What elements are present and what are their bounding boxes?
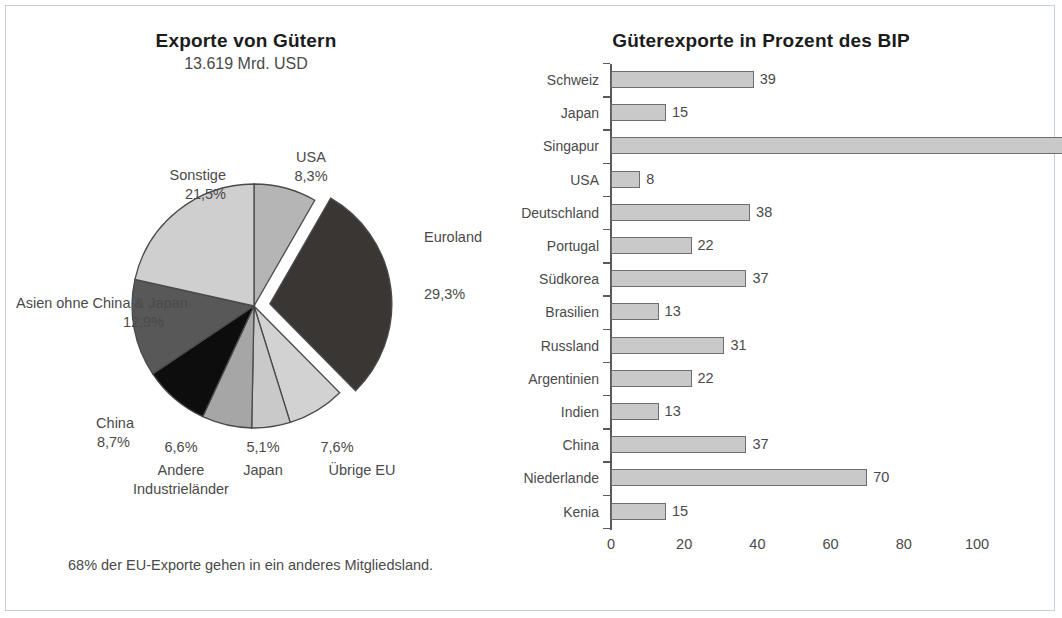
bar-chart: Schweiz39Japan15Singapur206USA8Deutschla… [511, 64, 1056, 564]
y-axis-tick [603, 395, 610, 396]
bar-value-label: 8 [646, 171, 654, 188]
bar-value-label: 22 [698, 237, 714, 254]
pie-label-andere-line1: Andere Industrieländer [121, 461, 241, 499]
bar-value-label: 70 [873, 469, 889, 486]
pie-value-andere-industrielaender: 6,6% [151, 438, 211, 457]
bar-deutschland [611, 204, 750, 221]
y-axis-tick [603, 63, 610, 64]
pie-chart-footnote: 68% der EU-Exporte gehen in ein anderes … [68, 557, 433, 573]
bar-argentinien [611, 370, 692, 387]
bar-category-label: Singapur [543, 138, 599, 154]
bar-chart-title: Güterexporte in Prozent des BIP [511, 30, 1011, 52]
chart-frame: Exporte von Gütern 13.619 Mrd. USD Sonst… [5, 5, 1055, 611]
y-axis-tick [603, 129, 610, 130]
bar-niederlande [611, 469, 867, 486]
pie-label-sonstige: Sonstige 21,5% [106, 166, 226, 204]
bar-s-dkorea [611, 270, 746, 287]
y-axis-tick [603, 196, 610, 197]
bar-value-label: 15 [672, 104, 688, 121]
pie-label-usa: USA 8,3% [266, 148, 356, 186]
pie-value-uebrige-eu: 7,6% [302, 438, 372, 457]
x-axis-tick-label: 100 [965, 536, 989, 552]
bar-value-label: 39 [760, 71, 776, 88]
bar-category-label: Portugal [547, 238, 599, 254]
y-axis-tick [603, 262, 610, 263]
bar-russland [611, 337, 724, 354]
bar-category-label: Kenia [563, 504, 599, 520]
bar-value-label: 38 [756, 204, 772, 221]
pie-label-uebrige-eu: Übrige EU [312, 461, 412, 480]
pie-chart-title: Exporte von Gütern [6, 30, 486, 52]
y-axis-tick [603, 428, 610, 429]
y-axis-tick [603, 495, 610, 496]
bar-value-label: 15 [672, 503, 688, 520]
bar-portugal [611, 237, 692, 254]
bar-category-label: Argentinien [528, 371, 599, 387]
y-axis-tick [603, 96, 610, 97]
pie-label-andere-industrielaender: Andere Industrieländer [116, 461, 246, 499]
bar-chart-y-axis [610, 64, 612, 530]
bar-category-label: Japan [561, 105, 599, 121]
x-axis-tick-label: 40 [749, 536, 765, 552]
x-axis-tick-label: 20 [676, 536, 692, 552]
x-axis-tick-label: 80 [896, 536, 912, 552]
bar-category-label: China [562, 437, 599, 453]
bar-category-label: Russland [541, 338, 599, 354]
pie-label-japan: Japan [228, 461, 298, 480]
bar-singapur [611, 137, 1062, 154]
pie-chart-subtitle: 13.619 Mrd. USD [6, 55, 486, 73]
bar-schweiz [611, 71, 754, 88]
pie-label-asien: Asien ohne China & Japan 12,9% [16, 294, 164, 332]
y-axis-tick [603, 461, 610, 462]
bar-category-label: USA [570, 172, 599, 188]
bar-japan [611, 104, 666, 121]
bar-indien [611, 403, 659, 420]
bar-brasilien [611, 303, 659, 320]
y-axis-tick [603, 362, 610, 363]
x-axis-tick-label: 0 [607, 536, 615, 552]
y-axis-tick [603, 295, 610, 296]
bar-category-label: Brasilien [545, 304, 599, 320]
bar-category-label: Deutschland [521, 205, 599, 221]
y-axis-tick [603, 329, 610, 330]
bar-value-label: 13 [665, 403, 681, 420]
bar-value-label: 13 [665, 303, 681, 320]
bar-kenia [611, 503, 666, 520]
pie-value-japan: 5,1% [228, 438, 298, 457]
bar-category-label: Indien [561, 404, 599, 420]
bar-value-label: 22 [698, 370, 714, 387]
bar-category-label: Schweiz [547, 72, 599, 88]
y-axis-tick [603, 528, 610, 529]
pie-label-china: China 8,7% [44, 414, 134, 452]
y-axis-tick [603, 229, 610, 230]
bar-category-label: Niederlande [524, 470, 600, 486]
x-axis-tick-label: 60 [823, 536, 839, 552]
bar-value-label: 31 [730, 337, 746, 354]
bar-value-label: 37 [752, 436, 768, 453]
bar-value-label: 37 [752, 270, 768, 287]
y-axis-tick [603, 163, 610, 164]
bar-usa [611, 171, 640, 188]
bar-category-label: Südkorea [539, 271, 599, 287]
bar-china [611, 436, 746, 453]
